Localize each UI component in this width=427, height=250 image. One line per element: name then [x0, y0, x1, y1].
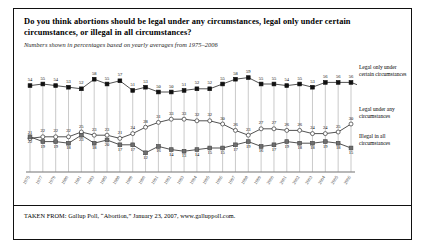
data-point-legal-any — [233, 128, 237, 132]
data-point-legal-only-certain — [234, 77, 238, 81]
x-axis-label: 2000 — [266, 174, 275, 185]
data-point-legal-any — [169, 117, 173, 121]
data-point-legal-only-certain — [298, 82, 302, 86]
data-point-legal-any — [131, 132, 135, 136]
chart-frame: Do you think abortions should be legal u… — [13, 8, 412, 240]
data-point-legal-only-certain — [54, 84, 58, 88]
data-label-legal-only-certain: 55 — [220, 76, 225, 81]
data-label-illegal-all: 17 — [118, 147, 123, 152]
data-label-legal-any: 30 — [220, 116, 225, 121]
data-label-illegal-all: 19 — [246, 144, 251, 149]
x-axis-label: 1975 — [22, 174, 31, 185]
data-point-legal-any — [67, 135, 71, 139]
data-point-legal-any — [156, 120, 160, 124]
x-axis-label: 1981 — [73, 174, 82, 185]
data-point-legal-any — [195, 119, 199, 123]
data-label-illegal-all: 18 — [297, 145, 302, 150]
data-label-legal-any: 24 — [323, 125, 328, 130]
data-label-legal-only-certain: 52 — [195, 80, 200, 85]
data-label-legal-only-certain: 51 — [182, 82, 187, 87]
x-axis-label: 1990 — [137, 174, 146, 185]
x-axis-label: 1997 — [227, 174, 236, 185]
data-point-legal-any — [336, 130, 340, 134]
data-label-legal-any: 26 — [285, 122, 290, 127]
data-label-legal-any: 32 — [195, 112, 200, 117]
x-axis-label: 1995 — [201, 174, 210, 185]
data-point-legal-only-certain — [221, 82, 225, 86]
x-axis-label: 2006 — [343, 174, 352, 185]
data-point-legal-any — [92, 133, 96, 137]
data-point-legal-only-certain — [323, 81, 327, 85]
x-axis-label: 1999 — [253, 174, 262, 185]
x-axis-label: 1985 — [99, 174, 108, 185]
x-axis-label: 1979 — [47, 174, 56, 185]
data-label-legal-any: 27 — [259, 120, 264, 125]
page-title: Do you think abortions should be legal u… — [24, 16, 396, 38]
legend-item-legal-any: Legal under any circumstances — [359, 106, 411, 119]
data-label-legal-only-certain: 59 — [246, 69, 251, 74]
data-point-legal-only-certain — [272, 82, 276, 86]
data-point-legal-only-certain — [169, 90, 173, 94]
data-label-legal-only-certain: 50 — [156, 84, 161, 89]
data-label-illegal-all: 18 — [336, 145, 341, 150]
data-point-legal-only-certain — [92, 77, 96, 81]
data-label-legal-any: 22 — [41, 128, 46, 133]
data-label-legal-any: 25 — [79, 124, 84, 129]
data-label-illegal-all: 18 — [92, 145, 97, 150]
data-point-legal-only-certain — [336, 81, 340, 85]
data-label-illegal-all: 15 — [349, 150, 354, 155]
data-point-legal-any — [285, 128, 289, 132]
data-label-legal-any: 22 — [66, 128, 71, 133]
x-axis-label: 1998 — [240, 174, 249, 185]
data-label-legal-any: 26 — [233, 122, 238, 127]
data-label-legal-only-certain: 50 — [169, 84, 174, 89]
data-point-legal-only-certain — [208, 87, 212, 91]
data-label-legal-any: 33 — [169, 111, 174, 116]
x-axis-label: 2005 — [330, 174, 339, 185]
data-label-illegal-all: 17 — [130, 147, 135, 152]
data-point-legal-only-certain — [79, 87, 83, 91]
footer-divider — [14, 205, 411, 206]
data-point-legal-any — [323, 132, 327, 136]
chart-svg: 1975197719791980198119831985198819891990… — [22, 54, 357, 199]
data-point-legal-only-certain — [349, 81, 353, 85]
x-axis-label: 1992 — [163, 174, 172, 185]
data-label-legal-only-certain: 55 — [297, 76, 302, 81]
data-label-legal-only-certain: 56 — [349, 74, 354, 79]
data-label-illegal-all: 16 — [156, 148, 161, 153]
data-label-legal-any: 24 — [130, 125, 135, 130]
legend-item-illegal-all: Illegal in all circumstances — [359, 133, 411, 146]
data-label-illegal-all: 20 — [105, 142, 110, 147]
x-axis-label: 1994 — [189, 174, 198, 185]
data-label-illegal-all: 16 — [259, 148, 264, 153]
data-label-legal-only-certain: 52 — [208, 80, 213, 85]
data-label-illegal-all: 13 — [182, 153, 187, 158]
data-point-legal-any — [349, 122, 353, 126]
data-point-legal-any — [118, 136, 122, 140]
data-label-legal-any: 21 — [28, 130, 33, 135]
data-point-legal-any — [208, 119, 212, 123]
data-point-legal-only-certain — [131, 89, 135, 93]
data-label-legal-any: 26 — [297, 122, 302, 127]
x-axis-label: 2003 — [304, 174, 313, 185]
x-axis-label: 2002 — [291, 174, 300, 185]
line-chart-plot: 1975197719791980198119831985198819891990… — [22, 54, 357, 199]
data-label-legal-only-certain: 56 — [323, 74, 328, 79]
x-axis-label: 2004 — [317, 174, 326, 185]
data-label-legal-any: 32 — [208, 112, 213, 117]
data-label-illegal-all: 14 — [169, 152, 174, 157]
data-point-legal-any — [272, 127, 276, 131]
data-label-legal-only-certain: 54 — [28, 77, 33, 82]
data-point-legal-only-certain — [182, 89, 186, 93]
data-point-legal-any — [54, 135, 58, 139]
data-point-legal-any — [182, 117, 186, 121]
data-label-legal-any: 28 — [143, 119, 148, 124]
data-label-illegal-all: 19 — [53, 144, 58, 149]
data-point-legal-only-certain — [157, 90, 161, 94]
data-label-illegal-all: 12 — [143, 155, 148, 160]
legend-item-legal-only-certain: Legal only under certain circumstances — [359, 64, 411, 77]
data-point-legal-only-certain — [28, 84, 32, 88]
data-label-legal-only-certain: 56 — [336, 74, 341, 79]
data-label-legal-only-certain: 53 — [310, 79, 315, 84]
data-label-legal-any: 27 — [272, 120, 277, 125]
